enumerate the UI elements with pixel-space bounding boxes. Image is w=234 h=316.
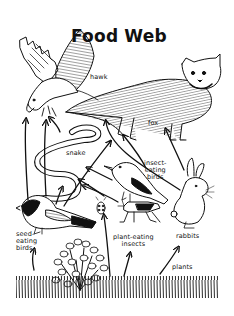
page-title: Food Web [71,26,167,46]
rabbit-icon [171,158,214,228]
node-label-plants: plants [172,264,193,271]
food-web-diagram: Food Web hawk fox snake insect- eating b… [0,0,234,316]
food-web-art [0,0,234,316]
node-label-insect-eating-birds: insect- eating birds [144,160,166,181]
node-label-seed-eating-birds: seed- eating birds [16,231,37,252]
node-label-hawk: hawk [90,74,108,81]
node-label-fox: fox [148,120,158,127]
beetle-icon [96,197,106,214]
node-label-rabbits: rabbits [176,233,199,240]
grass-icon [16,276,218,298]
grasshopper-icon [118,200,160,222]
node-label-plant-eating-insects: plant-eating insects [113,234,154,248]
node-label-snake: snake [66,150,86,157]
